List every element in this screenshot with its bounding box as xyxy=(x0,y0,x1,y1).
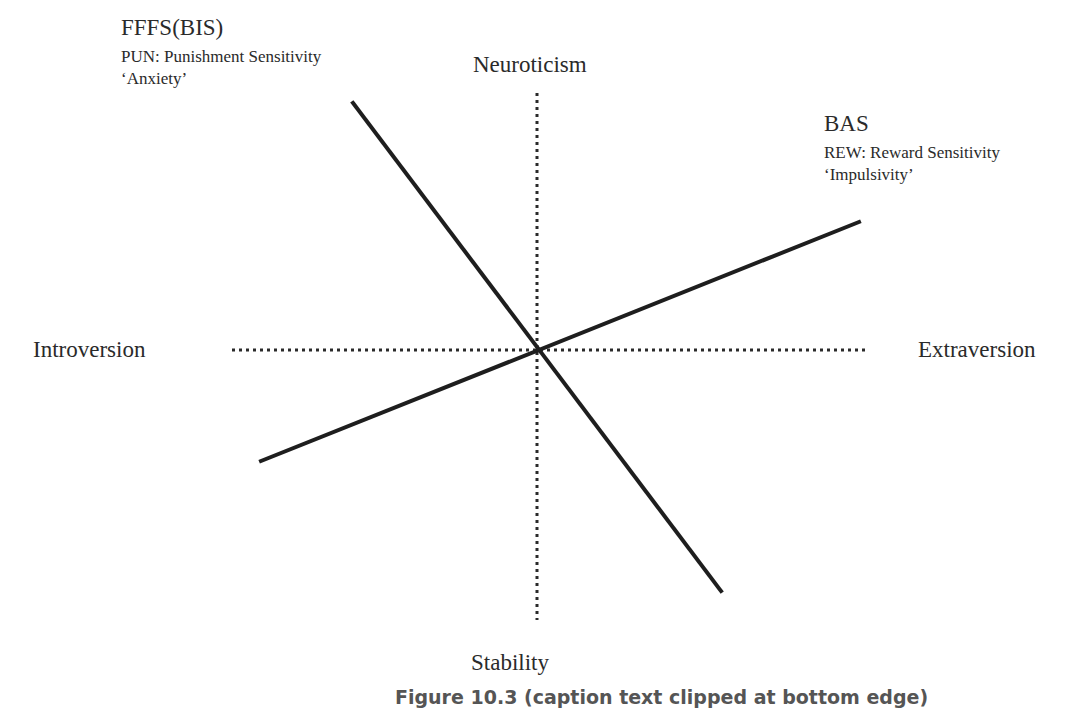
bas-impulsivity-line xyxy=(261,222,859,461)
label-introversion: Introversion xyxy=(33,337,145,363)
bis-punishment-label: PUN: Punishment Sensitivity xyxy=(121,46,321,68)
bas-impulsivity-label: ‘Impulsivity’ xyxy=(824,164,914,186)
bis-title: FFFS(BIS) xyxy=(121,15,223,41)
bis-anxiety-label: ‘Anxiety’ xyxy=(121,68,187,90)
figure-caption-clipped: Figure 10.3 (caption text clipped at bot… xyxy=(395,686,928,708)
label-extraversion: Extraversion xyxy=(918,337,1036,363)
label-stability: Stability xyxy=(471,650,549,676)
label-neuroticism: Neuroticism xyxy=(473,52,587,78)
bas-reward-label: REW: Reward Sensitivity xyxy=(824,142,1000,164)
bis-anxiety-line xyxy=(353,103,721,591)
bas-title: BAS xyxy=(824,111,869,137)
